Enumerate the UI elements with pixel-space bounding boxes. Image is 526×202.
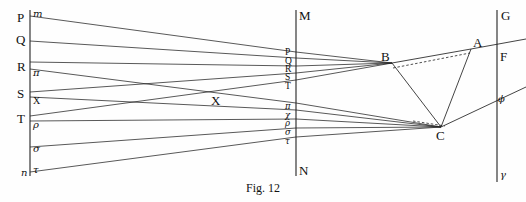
lens-plane-label-T2: T (285, 82, 291, 92)
vertex-label-B: B (381, 50, 390, 63)
object-plane-label-X: X (33, 96, 40, 106)
ray-S-incident (30, 73, 296, 92)
object-plane-label-P: P (17, 11, 24, 24)
ray-rho-incident (30, 119, 296, 121)
ray-pi-refracted (296, 103, 441, 127)
object-plane-label-sigma: σ (33, 144, 40, 154)
exit-B-to-C (392, 63, 441, 127)
object-plane-label-m: m (33, 9, 42, 19)
ray-diagram-canvas (0, 0, 526, 202)
image-plane-label-gamma: γ (500, 170, 506, 180)
image-plane-label-G: G (501, 9, 510, 22)
ray-chi-refracted (296, 110, 441, 127)
vertex-label-C: C (436, 129, 445, 142)
object-plane-label-pi: π (33, 68, 40, 78)
exit-B-to-A (392, 49, 471, 63)
object-plane-label-T: T (17, 112, 25, 125)
ray-tau-refracted (296, 127, 441, 137)
object-plane-label-tau: τ (33, 165, 39, 175)
figure-caption: Fig. 12 (0, 181, 526, 196)
ray-sigma-refracted (296, 127, 441, 128)
ray-chi-incident (30, 97, 296, 110)
lower-ray-bundle-lines (30, 69, 441, 172)
figure-12-ray-diagram: PmQRπSXTρσnτPQRSTπχρστMNGFϕγABCX Fig. 12 (0, 0, 526, 202)
ray-Q-refracted (296, 58, 392, 63)
ray-sigma-incident (30, 128, 296, 147)
lens-plane-label-N: N (299, 164, 308, 177)
object-plane-label-R: R (17, 60, 26, 73)
ray-R-incident (30, 62, 296, 66)
ray-rho-refracted (296, 119, 441, 127)
image-plane-label-F: F (500, 50, 507, 63)
lens-plane-label-M: M (299, 9, 311, 22)
field-label-X-field: X (211, 94, 220, 107)
vertex-label-A: A (473, 36, 482, 49)
lens-plane-label-tau2: τ (285, 137, 290, 146)
ray-tau-incident (30, 137, 296, 172)
object-plane-label-S: S (17, 87, 24, 100)
ray-P-incident (30, 16, 296, 52)
ray-P-refracted (296, 52, 392, 63)
axis-lines (30, 10, 497, 182)
object-plane-label-n: n (21, 168, 27, 178)
object-plane-label-Q: Q (16, 33, 25, 46)
object-plane-label-rho: ρ (33, 120, 39, 130)
ray-Q-incident (30, 41, 296, 58)
image-plane-label-phi: ϕ (498, 94, 505, 104)
